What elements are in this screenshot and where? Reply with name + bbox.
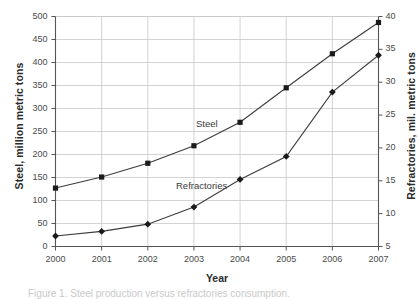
y-axis-left-tick-label: 50 [20,218,48,228]
x-axis-tick-label: 2002 [128,254,168,264]
data-point-steel [284,85,289,90]
x-axis-tick-label: 2001 [82,254,122,264]
data-point-steel [53,185,58,190]
y-axis-right-tick-label: 40 [386,11,414,21]
x-axis-tick-label: 2006 [312,254,352,264]
y-axis-right-tick-label: 20 [386,142,414,152]
y-axis-left-tick-label: 250 [20,126,48,136]
data-point-refractories [237,176,244,183]
y-axis-left-tick-label: 150 [20,172,48,182]
x-axis-tick-label: 2004 [220,254,260,264]
series-line-refractories [56,55,379,236]
x-axis-tick-label: 2005 [266,254,306,264]
y-axis-right-tick-label: 10 [386,208,414,218]
x-axis-tick-label: 2003 [174,254,214,264]
y-axis-left-tick-label: 200 [20,149,48,159]
data-point-steel [99,174,104,179]
y-axis-left-tick-label: 450 [20,34,48,44]
data-point-refractories [191,204,198,211]
y-axis-left-tick-label: 100 [20,195,48,205]
x-axis-tick-label: 2000 [36,254,76,264]
data-point-steel [191,143,196,148]
data-point-refractories [144,221,151,228]
y-axis-right-tick-label: 5 [386,241,414,251]
figure-caption: Figure 1. Steel production versus refrac… [28,288,290,299]
y-axis-left-tick-label: 0 [20,241,48,251]
y-axis-left-tick-label: 350 [20,80,48,90]
x-axis-tick-label: 2007 [359,254,399,264]
y-axis-left-tick-label: 500 [20,11,48,21]
data-point-refractories [52,233,59,240]
y-axis-left-tick-label: 400 [20,57,48,67]
data-point-steel [145,161,150,166]
y-axis-right-tick-label: 30 [386,76,414,86]
series-annotation-refractories: Refractories [176,180,227,191]
y-axis-right-tick-label: 25 [386,109,414,119]
series-line-steel [56,22,379,188]
data-point-steel [376,20,381,25]
series-annotation-steel: Steel [196,118,218,129]
y-axis-right-tick-label: 15 [386,175,414,185]
data-point-steel [330,51,335,56]
data-point-refractories [98,228,105,235]
y-axis-left-tick-label: 300 [20,103,48,113]
data-point-steel [237,120,242,125]
y-axis-right-tick-label: 35 [386,43,414,53]
